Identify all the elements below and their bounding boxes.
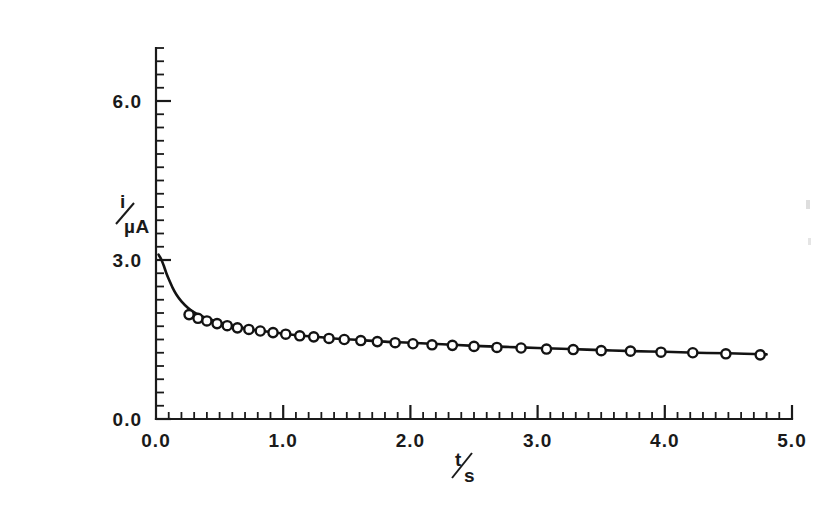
x-tick-label: 4.0 <box>650 430 679 451</box>
data-point-marker <box>569 345 578 354</box>
data-point-marker <box>688 348 697 357</box>
scan-speck <box>806 200 810 209</box>
data-point-marker <box>542 344 551 353</box>
x-tick-label: 0.0 <box>141 430 170 451</box>
data-point-marker <box>597 346 606 355</box>
y-axis-label-numerator: i <box>120 191 126 212</box>
scan-speck <box>808 238 811 245</box>
data-point-marker <box>626 347 635 356</box>
data-point-marker <box>223 321 232 330</box>
x-tick-label: 2.0 <box>396 430 425 451</box>
x-tick-label: 1.0 <box>268 430 297 451</box>
data-point-marker <box>212 319 221 328</box>
y-tick-label: 3.0 <box>113 250 142 271</box>
data-point-marker <box>469 342 478 351</box>
data-point-marker <box>256 326 265 335</box>
x-tick-label: 5.0 <box>777 430 806 451</box>
data-point-marker <box>356 336 365 345</box>
y-axis-label-denominator: µA <box>124 216 150 237</box>
x-tick-label: 3.0 <box>523 430 552 451</box>
data-point-marker <box>516 343 525 352</box>
y-tick-label: 0.0 <box>113 409 142 430</box>
data-point-marker <box>408 339 417 348</box>
data-point-marker <box>295 331 304 340</box>
y-tick-label: 6.0 <box>113 91 142 112</box>
data-point-marker <box>324 334 333 343</box>
data-point-marker <box>427 340 436 349</box>
data-point-marker <box>340 335 349 344</box>
data-point-marker <box>244 325 253 334</box>
data-point-marker <box>492 343 501 352</box>
data-point-marker <box>233 323 242 332</box>
data-point-marker <box>281 330 290 339</box>
data-point-marker <box>448 341 457 350</box>
data-point-marker <box>721 349 730 358</box>
data-point-marker <box>373 337 382 346</box>
data-point-marker <box>756 350 765 359</box>
data-point-marker <box>656 348 665 357</box>
data-point-marker <box>309 332 318 341</box>
data-point-marker <box>268 328 277 337</box>
x-axis-label-denominator: s <box>464 465 475 486</box>
data-point-marker <box>391 338 400 347</box>
data-point-marker <box>202 316 211 325</box>
chart-svg: 0.03.06.0 0.01.02.03.04.05.0 i µA t s <box>0 0 829 506</box>
chart-figure: 0.03.06.0 0.01.02.03.04.05.0 i µA t s <box>0 0 829 506</box>
